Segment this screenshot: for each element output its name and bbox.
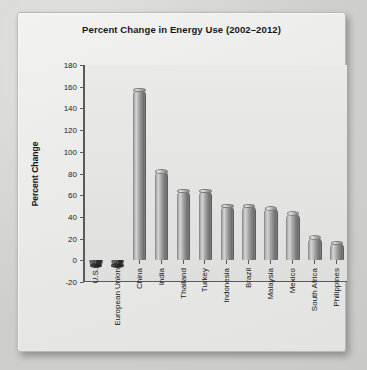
x-tick-label: Turkey bbox=[200, 268, 209, 292]
x-tick-label: South Africa bbox=[310, 268, 319, 311]
bar bbox=[242, 206, 256, 260]
y-tick-label: 20 bbox=[68, 234, 77, 243]
y-tick bbox=[80, 130, 85, 131]
bar bbox=[330, 243, 344, 260]
x-tick-label: Malaysia bbox=[266, 268, 275, 300]
x-tick bbox=[204, 260, 205, 264]
y-tick bbox=[80, 108, 85, 109]
y-tick-label: 140 bbox=[64, 104, 77, 113]
x-tick bbox=[139, 260, 140, 264]
bar bbox=[221, 206, 235, 260]
x-tick bbox=[226, 260, 227, 264]
y-tick bbox=[80, 174, 85, 175]
x-tick-label: Philippines bbox=[331, 268, 340, 307]
y-tick bbox=[80, 239, 85, 240]
plot-area: Percent Change 180160140120100806040200-… bbox=[84, 65, 347, 282]
y-tick bbox=[80, 87, 85, 88]
y-tick-label: 120 bbox=[64, 126, 77, 135]
x-tick-label: U.S. bbox=[90, 268, 99, 284]
x-tick-label: European Union bbox=[112, 268, 121, 326]
x-tick bbox=[117, 260, 118, 264]
x-tick-label: Mexico bbox=[288, 268, 297, 293]
y-tick-label: 80 bbox=[68, 169, 77, 178]
y-tick-label: 180 bbox=[64, 61, 77, 70]
x-tick bbox=[183, 260, 184, 264]
y-axis-title: Percent Change bbox=[30, 141, 40, 206]
x-tick bbox=[314, 260, 315, 264]
y-tick bbox=[80, 195, 85, 196]
bar bbox=[308, 238, 322, 261]
chart-panel: Percent Change in Energy Use (2002–2012)… bbox=[17, 12, 346, 352]
x-tick bbox=[248, 260, 249, 264]
y-tick bbox=[80, 260, 85, 261]
x-tick bbox=[336, 260, 337, 264]
bar bbox=[264, 208, 278, 260]
x-axis-line bbox=[84, 281, 347, 283]
bar bbox=[199, 191, 213, 260]
chart-title: Percent Change in Energy Use (2002–2012) bbox=[18, 24, 345, 35]
x-tick-label: China bbox=[134, 268, 143, 289]
x-tick-label: Brazil bbox=[244, 268, 253, 288]
x-tick-label: Thailand bbox=[178, 268, 187, 299]
x-tick bbox=[292, 260, 293, 264]
bar bbox=[133, 90, 147, 260]
y-tick-label: 100 bbox=[64, 147, 77, 156]
y-tick-label: 160 bbox=[64, 82, 77, 91]
x-tick bbox=[270, 260, 271, 264]
y-tick-label: -20 bbox=[65, 278, 77, 287]
bar bbox=[155, 171, 169, 260]
y-tick bbox=[80, 152, 85, 153]
y-tick-label: 40 bbox=[68, 212, 77, 221]
bar bbox=[286, 214, 300, 261]
y-tick-label: 60 bbox=[68, 191, 77, 200]
y-tick bbox=[80, 65, 85, 66]
x-tick-label: India bbox=[156, 268, 165, 285]
y-tick-label: 0 bbox=[73, 256, 77, 265]
x-tick bbox=[95, 260, 96, 264]
y-tick bbox=[80, 282, 85, 283]
x-tick-label: Indonesia bbox=[222, 268, 231, 303]
y-tick bbox=[80, 217, 85, 218]
bar bbox=[177, 191, 191, 260]
x-tick bbox=[161, 260, 162, 264]
